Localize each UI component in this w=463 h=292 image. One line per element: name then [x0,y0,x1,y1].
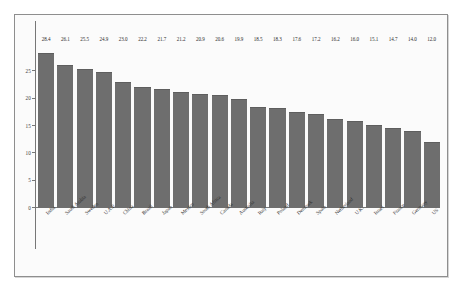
bar-series: 28.426.125.524.923.022.221.721.220.920.6… [36,44,439,208]
bar-item[interactable]: 25.5 [77,44,93,208]
bar-value-label: 19.9 [235,37,244,42]
y-axis-tick-label: 0 [17,206,31,211]
bar-item[interactable]: 17.6 [289,44,305,208]
x-axis-label-slot: Israel [366,210,382,272]
x-axis-label-slot: China [115,210,131,272]
bar-value-label: 20.6 [215,37,224,42]
bar-value-label: 12.0 [427,37,436,42]
bar-value-label: 28.4 [42,37,51,42]
bar-value-label: 17.6 [292,37,301,42]
bar-rect[interactable] [347,121,363,208]
bar-rect[interactable] [96,72,112,208]
bar-value-label: 16.0 [350,37,359,42]
bar-rect[interactable] [115,82,131,208]
bar-item[interactable]: 20.9 [192,44,208,208]
bar-rect[interactable] [77,69,93,208]
x-axis-label-slot: Japan [154,210,170,272]
bar-item[interactable]: 20.6 [212,44,228,208]
x-axis-label-slot: India [38,210,54,272]
bar-item[interactable]: 18.3 [269,44,285,208]
bar-item[interactable]: 22.2 [134,44,150,208]
x-axis-label-slot: U.K. [347,210,363,272]
x-axis-label-slot: Sweden [77,210,93,272]
y-axis-tick-mark [32,125,35,126]
bar-rect[interactable] [231,99,247,208]
x-axis-label-slot: US [424,210,440,272]
bar-value-label: 14.7 [389,37,398,42]
bar-value-label: 25.5 [80,37,89,42]
x-axis-tick-label: Italy [257,206,267,216]
x-axis-label-slot: Canada [212,210,228,272]
bar-item[interactable]: 17.2 [308,44,324,208]
bar-item[interactable]: 14.0 [404,44,420,208]
y-axis-tick-mark [32,70,35,71]
bar-value-label: 24.9 [100,37,109,42]
bar-item[interactable]: 28.4 [38,44,54,208]
bar-rect[interactable] [250,107,266,208]
bar-item[interactable]: 16.0 [347,44,363,208]
y-axis-tick-label: 15 [17,124,31,129]
bar-rect[interactable] [424,142,440,208]
x-axis-label-slot: Brazil [134,210,150,272]
bar-rect[interactable] [327,119,343,208]
bar-value-label: 22.2 [138,37,147,42]
bar-rect[interactable] [269,108,285,208]
bar-rect[interactable] [366,125,382,208]
y-axis-tick-label: 25 [17,69,31,74]
y-axis-tick-label: 5 [17,178,31,183]
bar-value-label: 21.2 [177,37,186,42]
y-axis-tick-mark [32,152,35,153]
bar-item[interactable]: 21.2 [173,44,189,208]
y-axis-tick-label: 10 [17,151,31,156]
x-axis-label-slot: Spain [308,210,324,272]
bar-item[interactable]: 26.1 [57,44,73,208]
x-axis-tick-label: US [431,208,439,216]
plot-area: 0510152025 28.426.125.524.923.022.221.72… [35,21,439,272]
x-axis-label-slot: Poland [269,210,285,272]
bar-value-label: 15.1 [370,37,379,42]
bar-value-label: 14.0 [408,37,417,42]
bar-value-label: 17.2 [312,37,321,42]
bar-rect[interactable] [404,131,420,208]
chart-figure: 0510152025 28.426.125.524.923.022.221.72… [14,14,448,277]
x-axis-label-slot: Italy [250,210,266,272]
bar-rect[interactable] [308,114,324,208]
bar-item[interactable]: 19.9 [231,44,247,208]
x-axis-label-slot: Denmark [289,210,305,272]
bar-item[interactable]: 15.1 [366,44,382,208]
x-axis-label-slot: South Africa [192,210,208,272]
bar-rect[interactable] [173,92,189,208]
bar-rect[interactable] [154,89,170,208]
bar-item[interactable]: 14.7 [385,44,401,208]
bar-rect[interactable] [57,65,73,208]
x-axis-label-slot: U.A.E [96,210,112,272]
bar-value-label: 18.5 [254,37,263,42]
bar-rect[interactable] [212,95,228,208]
bar-rect[interactable] [289,112,305,208]
y-axis-tick-mark [32,98,35,99]
bar-value-label: 20.9 [196,37,205,42]
bar-item[interactable]: 24.9 [96,44,112,208]
bar-rect[interactable] [134,87,150,208]
x-axis-label-slot: Germany [404,210,420,272]
bar-value-label: 23.0 [119,37,128,42]
bar-rect[interactable] [385,128,401,208]
bar-value-label: 18.3 [273,37,282,42]
x-axis-label-slot: Mexico [173,210,189,272]
x-axis-label-slot: France [385,210,401,272]
bar-item[interactable]: 16.2 [327,44,343,208]
bar-item[interactable]: 23.0 [115,44,131,208]
y-axis-tick-label: 20 [17,96,31,101]
bar-rect[interactable] [38,53,54,208]
bar-value-label: 21.7 [157,37,166,42]
bar-value-label: 16.2 [331,37,340,42]
bar-item[interactable]: 18.5 [250,44,266,208]
y-axis-tick-mark [32,180,35,181]
bar-item[interactable]: 12.0 [424,44,440,208]
x-axis-label-slot: Australia [231,210,247,272]
x-axis-label-slot: Netherland [327,210,343,272]
bar-rect[interactable] [192,94,208,208]
bar-item[interactable]: 21.7 [154,44,170,208]
bar-value-label: 26.1 [61,37,70,42]
x-axis-labels: IndiaSaudi ArabiaSwedenU.A.EChinaBrazilJ… [36,210,439,272]
